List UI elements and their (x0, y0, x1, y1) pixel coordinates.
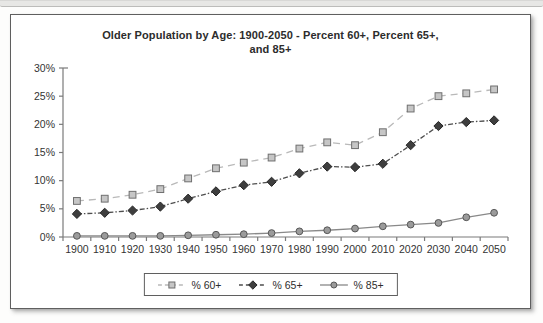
y-tick-label: 15% (34, 146, 55, 158)
x-tick-label: 1910 (93, 243, 117, 255)
x-tick-label: 1900 (65, 243, 89, 255)
y-tick-label: 5% (40, 202, 55, 214)
chart-legend: % 60+% 65+% 85+ (143, 273, 397, 296)
page: Older Population by Age: 1900-2050 - Per… (0, 0, 543, 323)
x-tick-labels: 1900191019201930194019501960197019801990… (65, 243, 506, 255)
y-tick-label: 10% (34, 174, 55, 186)
x-tick-label: 1940 (176, 243, 200, 255)
x-tick-label: 1920 (121, 243, 145, 255)
x-tick-label: 2040 (455, 243, 479, 255)
x-tick-label: 2050 (482, 243, 506, 255)
x-tick-label: 1980 (288, 243, 312, 255)
legend-item-65: % 65+ (238, 279, 302, 291)
chart-title-line2: and 85+ (250, 43, 292, 55)
plot-svg: 0%5%10%15%20%25%30%190019101920193019401… (11, 61, 530, 261)
series-line (77, 89, 494, 201)
series-65 (72, 116, 498, 219)
circle-marker-icon (320, 279, 348, 291)
legend-label: % 65+ (272, 279, 302, 291)
y-tick-labels: 0%5%10%15%20%25%30% (34, 62, 55, 243)
y-tick-label: 0% (40, 231, 55, 243)
page-edge-strip (0, 0, 543, 7)
y-tick-label: 20% (34, 118, 55, 130)
square-marker-icon (157, 279, 185, 291)
series-60 (74, 86, 498, 204)
x-tick-label: 2030 (427, 243, 451, 255)
x-tick-label: 2010 (371, 243, 395, 255)
chart-panel: Older Population by Age: 1900-2050 - Per… (10, 14, 531, 309)
x-tick-label: 1950 (204, 243, 228, 255)
series-line (77, 213, 494, 236)
legend-label: % 85+ (354, 279, 384, 291)
series-85 (74, 209, 498, 239)
chart-title-line1: Older Population by Age: 1900-2050 - Per… (102, 29, 439, 41)
x-tick-label: 1990 (316, 243, 340, 255)
y-tick-label: 30% (34, 62, 55, 74)
x-tick-label: 1930 (149, 243, 173, 255)
chart-title: Older Population by Age: 1900-2050 - Per… (11, 28, 530, 56)
x-tick-label: 1960 (232, 243, 256, 255)
y-tick-label: 25% (34, 90, 55, 102)
legend-item-60: % 60+ (157, 279, 221, 291)
diamond-marker-icon (238, 279, 266, 291)
legend-item-85: % 85+ (320, 279, 384, 291)
x-tick-label: 2000 (343, 243, 367, 255)
legend-label: % 60+ (191, 279, 221, 291)
x-tick-label: 1970 (260, 243, 284, 255)
x-tick-label: 2020 (399, 243, 423, 255)
series-line (77, 120, 494, 214)
